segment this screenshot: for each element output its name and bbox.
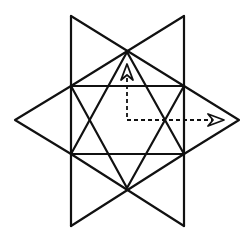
star-net-diagram (0, 0, 252, 241)
left-kite-flap (15, 86, 71, 154)
up-arrow-icon (121, 64, 133, 80)
right-arrow-icon (208, 114, 224, 126)
